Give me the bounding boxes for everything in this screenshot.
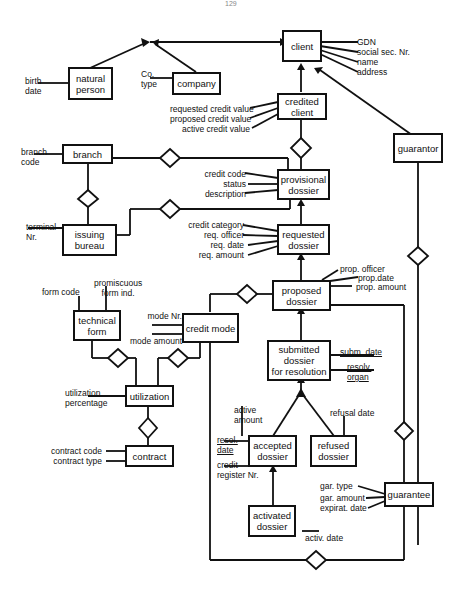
attr-expirat-date: expirat. date [320,503,367,513]
rel-form-utilization [108,349,128,367]
rel-proposed-creditmode [237,285,257,303]
rel-bureau-provisional [160,200,180,218]
attr-name: name [357,57,378,67]
attr-description: description [190,189,246,199]
entity-company[interactable]: company [172,72,221,95]
rel-guarantor-guarantee [408,247,428,265]
entity-technical-form[interactable]: technical form [73,310,121,341]
entity-guarantee[interactable]: guarantee [384,482,434,507]
entity-credited-client[interactable]: credited client [277,93,327,120]
entity-requested-dossier[interactable]: requested dossier [277,224,330,255]
attr-proposed-credit-value: proposed credit value [170,114,250,124]
attr-gdn: GDN [357,37,376,47]
entity-branch[interactable]: branch [62,144,113,164]
entity-provisional-dossier[interactable]: provisional dossier [277,169,330,200]
attr-promiscuous-form-ind: promiscuous form ind. [94,278,142,298]
attr-contract-type: contract type [40,456,102,466]
attr-contract-code: contract code [40,446,102,456]
attr-co-type: Co. type [141,69,157,89]
rel-branch-provisional [160,149,180,167]
attr-mode-nr: mode Nr. [130,311,182,321]
attr-credit-category: credit category [180,220,244,230]
rel-utilization-contract [139,418,157,438]
attr-branch-code: branch code [21,147,47,167]
entity-utilization[interactable]: utilization [125,385,174,407]
entity-natural-person[interactable]: natural person [68,67,113,100]
rel-mode-utilization [168,349,188,367]
rel-proposed-guarantee [395,422,413,440]
attr-activ-date: activ. date [305,533,343,543]
entity-issuing-bureau[interactable]: issuing bureau [62,224,117,256]
attr-status: status [190,179,246,189]
rel-mode-guarantee [306,551,326,569]
entity-credit-mode[interactable]: credit mode [182,313,239,343]
attr-gar-type: gar. type [320,481,353,491]
entity-refused-dossier[interactable]: refused dossier [310,435,357,467]
attr-prop-amount: prop. amount [356,282,406,292]
rel-branch-bureau [78,190,98,207]
entity-contract[interactable]: contract [125,445,174,467]
entity-submitted-dossier[interactable]: submitted dossier for resolution [267,340,331,381]
attr-form-code: form code [42,287,80,297]
attr-credit-code: credit code [190,169,246,179]
entity-guarantor[interactable]: guarantor [393,133,443,163]
attr-resolv-organ: resolv. organ [347,362,371,382]
attr-active-credit-value: active credit value [170,124,250,134]
attr-gar-amount: gar. amount [320,493,365,503]
page-number: 129 [225,0,237,7]
attr-req-amount: req. amount [180,250,244,260]
attr-credit-register-nr: credit register Nr. [217,460,259,480]
attr-requested-credit-value: requested credit value [170,104,250,114]
attr-resol-date: resol. date [217,435,238,455]
attr-address: address [357,67,387,77]
attr-birth-date: birth date [25,76,42,96]
attr-mode-amount: mode amount [120,336,182,346]
rel-credited-provisional [291,138,311,158]
entity-activated-dossier[interactable]: activated dossier [248,505,296,537]
entity-client[interactable]: client [282,30,322,62]
attr-social-sec-nr: social sec. Nr. [357,47,410,57]
attr-subm-date: subm. date [340,347,382,357]
attr-req-date: req. date [180,240,244,250]
attr-req-officer: req. officer [180,230,244,240]
entity-proposed-dossier[interactable]: proposed dossier [272,280,331,311]
attr-utilization-percentage: utilization percentage [65,388,108,408]
attr-refusal-date: refusal date [330,408,374,418]
attr-terminal-nr: terminal Nr. [26,222,56,242]
attr-active-amount: active amount [234,405,262,425]
